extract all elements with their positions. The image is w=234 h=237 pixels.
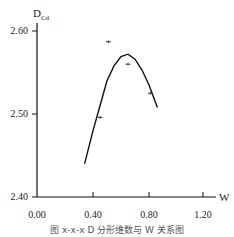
x-tick-label: 0.80 xyxy=(140,209,158,220)
scatter-points xyxy=(98,40,153,119)
y-axis-title: DCd xyxy=(33,7,50,22)
x-ticks: 0.00 0.40 0.80 1.20 xyxy=(28,192,212,220)
chart-canvas: 2.60 2.50 2.40 0.00 0.40 0.80 1.20 DCd W xyxy=(0,0,234,237)
figure-caption: 图 x-x-x D 分形维数与 W 关系图 xyxy=(0,223,234,236)
y-ticks: 2.60 2.50 2.40 xyxy=(11,25,38,202)
x-tick-label: 1.20 xyxy=(194,209,212,220)
y-tick-label: 2.50 xyxy=(11,108,29,119)
fit-curve xyxy=(85,54,158,164)
y-tick-label: 2.40 xyxy=(11,191,29,202)
y-tick-label: 2.60 xyxy=(11,25,29,36)
x-axis-title: W xyxy=(219,191,230,203)
x-tick-label: 0.00 xyxy=(28,209,46,220)
x-tick-label: 0.40 xyxy=(84,209,102,220)
